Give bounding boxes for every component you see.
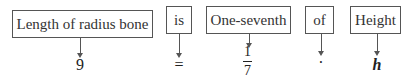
word-label: is (174, 12, 184, 29)
symbol-h: h (367, 56, 387, 74)
word-label: One-seventh (211, 12, 287, 29)
symbol-multiply-dot: · (311, 54, 331, 72)
symbol-equals: = (169, 56, 189, 74)
symbol-nine: 9 (70, 56, 90, 74)
arrow-down-icon (80, 38, 81, 54)
fraction-bar (243, 61, 252, 62)
word-box-one-seventh: One-seventh (206, 6, 291, 34)
word-box-is: is (166, 6, 192, 34)
word-box-of: of (305, 6, 334, 34)
arrow-down-icon (377, 34, 378, 52)
word-label: Height (355, 12, 396, 29)
word-label: of (313, 12, 326, 29)
fraction-numerator: 1 (244, 45, 251, 59)
symbol-fraction-one-seventh: 1 7 (243, 45, 252, 78)
arrow-down-icon (179, 34, 180, 54)
arrow-down-icon (321, 34, 322, 52)
fraction-denominator: 7 (244, 64, 251, 78)
word-label: Length of radius bone (16, 16, 148, 33)
word-box-height: Height (350, 6, 401, 34)
word-box-length-of-radius-bone: Length of radius bone (12, 10, 153, 38)
arrow-down-icon (249, 34, 250, 44)
